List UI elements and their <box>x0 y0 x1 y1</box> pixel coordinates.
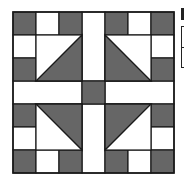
square-light <box>151 35 174 58</box>
square-light <box>36 12 59 35</box>
square-dark <box>13 58 36 81</box>
square-dark <box>151 104 174 127</box>
table-divider <box>182 47 184 48</box>
quilt-block-diagram <box>12 11 175 174</box>
sash-right <box>105 81 174 104</box>
partial-table <box>181 26 184 68</box>
square-dark <box>151 12 174 35</box>
square-light <box>36 150 59 173</box>
square-light <box>128 150 151 173</box>
square-dark <box>82 81 105 104</box>
square-dark <box>59 12 82 35</box>
square-dark <box>105 12 128 35</box>
partial-label-marker <box>181 8 184 20</box>
square-light <box>128 12 151 35</box>
square-dark <box>151 150 174 173</box>
sash-left <box>13 81 82 104</box>
square-dark <box>151 58 174 81</box>
square-dark <box>13 104 36 127</box>
square-dark <box>105 150 128 173</box>
square-dark <box>13 12 36 35</box>
square-light <box>151 127 174 150</box>
sash-top <box>82 12 105 81</box>
sash-bottom <box>82 104 105 173</box>
square-light <box>13 35 36 58</box>
square-dark <box>13 150 36 173</box>
square-dark <box>59 150 82 173</box>
square-light <box>13 127 36 150</box>
